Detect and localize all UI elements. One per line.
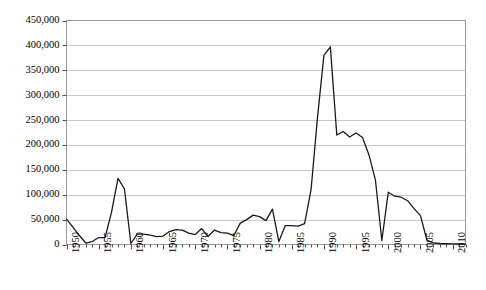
gridlines-group: [67, 46, 466, 221]
x-axis-tick-label: 1970: [200, 232, 211, 253]
x-axis-tick-label: 1990: [328, 232, 339, 253]
y-axis-tick-label: 200,000: [25, 139, 59, 150]
y-axis-tick-label: 0: [54, 239, 59, 250]
x-axis-tick-label: 1975: [232, 232, 243, 253]
y-axis-tick-label: 450,000: [25, 15, 59, 26]
y-axis-tick-label: 250,000: [25, 115, 59, 126]
x-axis-tick-label: 2005: [425, 232, 436, 253]
y-axis-tick-label: 300,000: [25, 90, 59, 101]
x-axis-tick-label: 1995: [361, 232, 372, 253]
x-axis-tick-label: 1985: [296, 232, 307, 253]
y-axis-tick-label: 350,000: [25, 65, 59, 76]
y-axis-tick-label: 150,000: [25, 164, 59, 175]
y-axis-tick-label: 400,000: [25, 40, 59, 51]
x-axis-tick-label: 1950: [71, 232, 82, 253]
line-chart: 050,000100,000150,000200,000250,000300,0…: [0, 0, 486, 290]
y-axis-ticks-group: [63, 22, 67, 246]
x-axis-tick-label: 1955: [103, 232, 114, 253]
plot-area-border: [67, 21, 466, 245]
y-axis-tick-label: 50,000: [31, 214, 60, 225]
x-axis-tick-label: 1965: [168, 232, 179, 253]
x-axis-tick-label: 1960: [135, 232, 146, 253]
x-axis-tick-label: 1980: [264, 232, 275, 253]
x-axis-tick-label: 2000: [393, 232, 404, 253]
x-axis-tick-label: 2010: [457, 232, 468, 253]
y-axis-tick-label: 100,000: [25, 189, 59, 200]
